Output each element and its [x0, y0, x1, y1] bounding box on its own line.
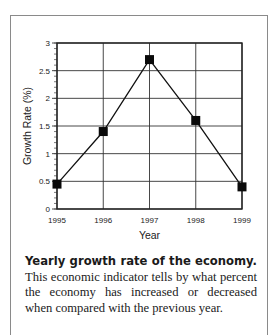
grid-lines [52, 43, 242, 209]
y-axis-title: Growth Rate (%) [21, 87, 33, 165]
x-tick-labels: 19951996199719981999 [48, 216, 251, 225]
x-tick-label: 1998 [187, 216, 205, 225]
y-tick-label: 3 [46, 39, 51, 48]
square-marker [99, 127, 108, 136]
y-tick-label: 2 [46, 94, 51, 103]
y-tick-labels: 00.511.522.53 [39, 39, 51, 214]
square-marker [53, 180, 62, 189]
caption-title: Yearly growth rate of the economy. [25, 254, 257, 268]
y-tick-label: 2.5 [39, 67, 51, 76]
x-tick-label: 1999 [233, 216, 251, 225]
x-axis-title: Year [139, 229, 161, 241]
y-tick-label: 0 [46, 205, 51, 214]
y-tick-label: 1.5 [39, 122, 51, 131]
square-marker [238, 182, 247, 191]
y-tick-label: 0.5 [39, 177, 51, 186]
caption-body: This economic indicator tells by what pe… [25, 270, 257, 315]
square-marker [145, 55, 154, 64]
figure-caption: Yearly growth rate of the economy. This … [25, 254, 257, 316]
x-tick-label: 1997 [141, 216, 159, 225]
square-marker [191, 116, 200, 125]
y-tick-label: 1 [46, 150, 51, 159]
line-chart: 00.511.522.53 19951996199719981999 Growt… [0, 0, 279, 250]
x-tick-label: 1995 [48, 216, 66, 225]
x-tick-label: 1996 [94, 216, 112, 225]
